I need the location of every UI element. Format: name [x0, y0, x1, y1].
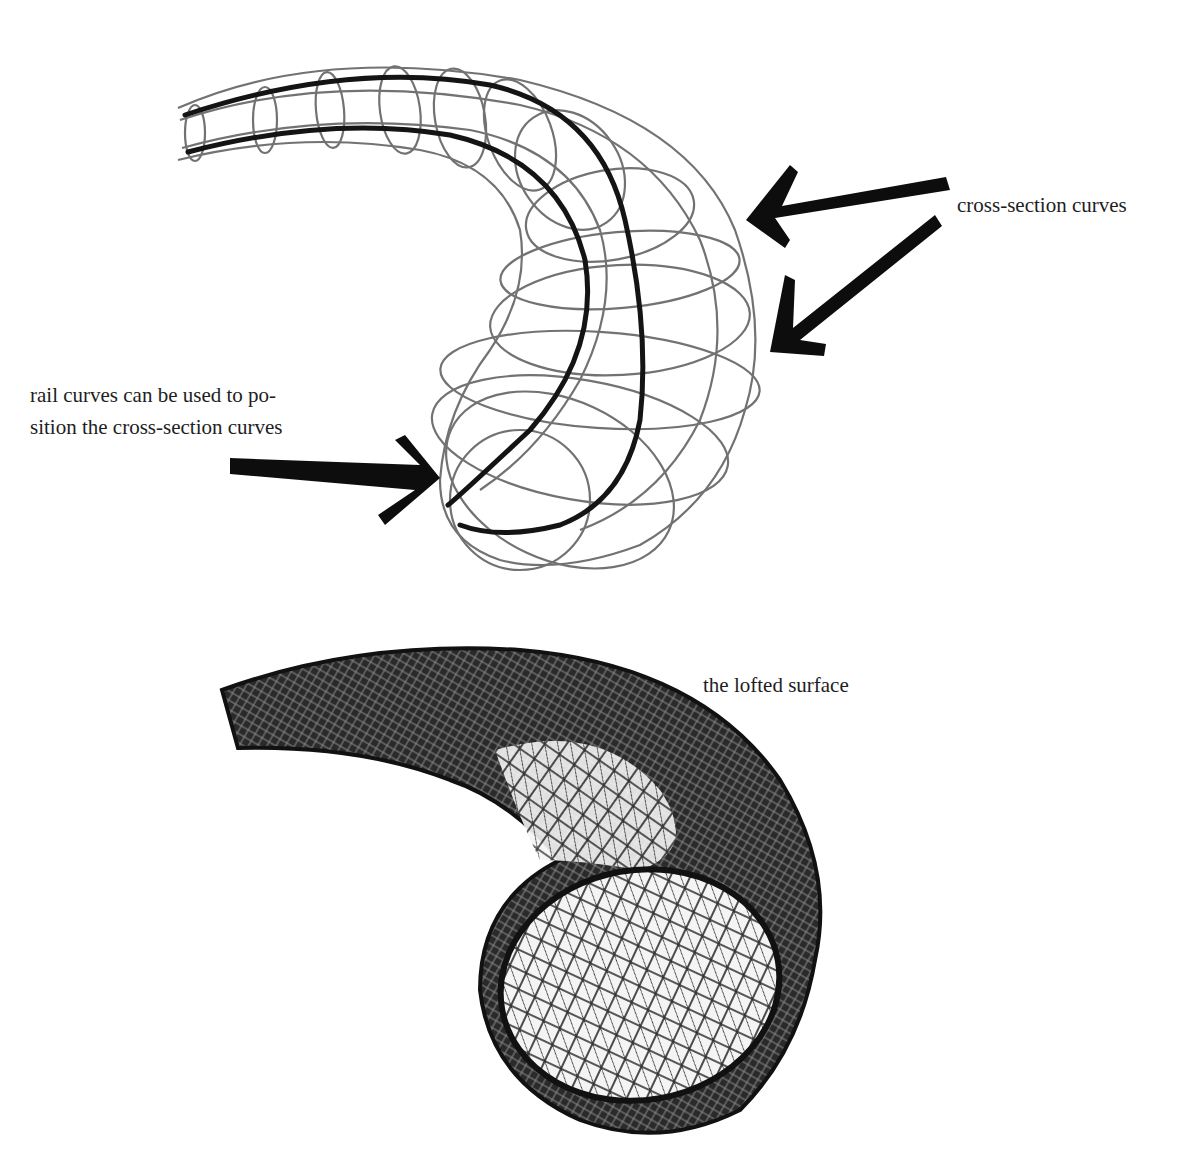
arrow-to-rail-curves: [230, 435, 440, 525]
wireframe-cross-sections: [178, 64, 763, 604]
label-lofted-surface: the lofted surface: [703, 670, 849, 700]
label-rail-curves-line2: sition the cross-section curves: [30, 412, 283, 442]
arrow-to-cross-sections-lower: [770, 215, 942, 356]
lofted-surface: [222, 648, 820, 1133]
label-cross-section-curves: cross-section curves: [957, 190, 1127, 220]
diagram-canvas: [0, 0, 1202, 1160]
label-rail-curves-line1: rail curves can be used to po-: [30, 380, 276, 410]
